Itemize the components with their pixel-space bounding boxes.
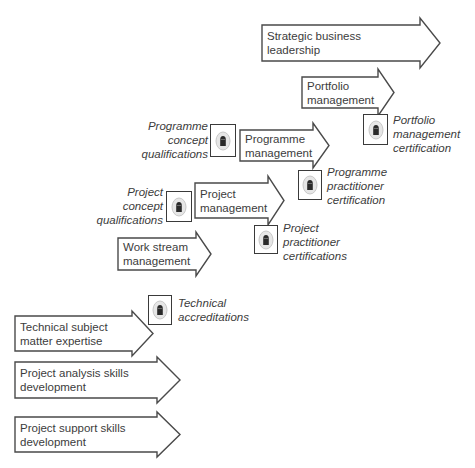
certificate-badge-icon <box>363 114 388 145</box>
certificate-badge-icon <box>148 295 172 325</box>
career-progression-diagram: Strategic business leadershipPortfolio m… <box>0 0 475 468</box>
certificate-badge-icon <box>298 170 322 200</box>
cert-label-programme-concept-qualifications: Programme concept qualifications <box>120 119 208 161</box>
arrow-label-portfolio-management: Portfolio management <box>307 79 374 107</box>
certificate-badge-icon <box>210 124 236 157</box>
arrows-layer <box>0 0 475 468</box>
certificate-badge-icon <box>166 191 192 222</box>
arrow-label-project-management: Project management <box>200 187 267 215</box>
cert-label-project-concept-qualifications: Project concept qualifications <box>75 185 163 227</box>
arrow-label-project-support-skills-development: Project support skills development <box>20 421 125 449</box>
cert-label-project-practitioner-certifications: Project practitioner certifications <box>283 221 347 263</box>
cert-label-programme-practitioner-certification: Programme practitioner certification <box>327 165 387 207</box>
certificate-badge-icon <box>254 225 278 254</box>
arrow-label-strategic-business-leadership: Strategic business leadership <box>267 29 361 57</box>
arrow-label-work-stream-management: Work stream management <box>123 240 190 268</box>
cert-label-portfolio-management-certification: Portfolio management certification <box>393 113 460 155</box>
cert-label-technical-accreditations: Technical accreditations <box>178 296 249 324</box>
arrow-label-programme-management: Programme management <box>245 132 312 160</box>
arrow-label-project-analysis-skills-development: Project analysis skills development <box>20 366 129 394</box>
arrow-label-technical-subject-matter-expertise: Technical subject matter expertise <box>20 320 108 348</box>
